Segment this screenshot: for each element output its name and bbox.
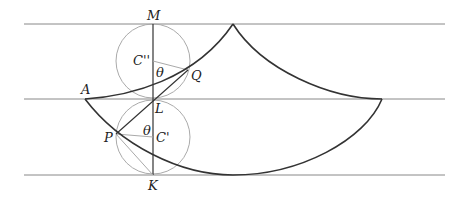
label-A: A — [80, 82, 90, 97]
upper-right-arc — [233, 24, 382, 99]
label-theta-upper: θ — [156, 65, 164, 80]
lower-cycloid-arc — [85, 99, 382, 175]
label-K: K — [147, 178, 159, 193]
label-C-prime: C' — [156, 130, 170, 145]
label-P: P — [103, 130, 113, 145]
line-PQ — [116, 70, 188, 134]
label-Q: Q — [191, 68, 202, 83]
label-C-double-prime: C'' — [133, 53, 150, 68]
label-M: M — [146, 8, 161, 23]
label-L: L — [154, 101, 164, 116]
upper-cycloid-arc — [85, 24, 233, 99]
label-theta-lower: θ — [143, 123, 151, 138]
cycloid-diagram: M C'' θ Q A L P θ C' K — [0, 0, 465, 200]
